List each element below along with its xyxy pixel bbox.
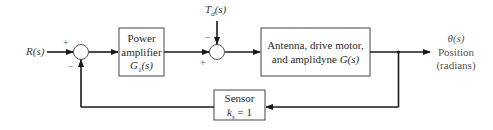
plant-line1: Antenna, drive motor, bbox=[261, 39, 370, 53]
output-line2: (radians) bbox=[432, 59, 480, 73]
input-label: R(s) bbox=[26, 45, 44, 58]
block-diagram: R(s) + − Power amplifier G1(s) Td(s) − +… bbox=[0, 0, 493, 130]
sensor-gain: ks = 1 bbox=[214, 106, 265, 125]
disturbance-label: Td(s) bbox=[205, 3, 226, 21]
sum1-plus-sign: + bbox=[63, 38, 69, 48]
summing-junction-2 bbox=[210, 45, 225, 60]
power-amplifier-label: Power amplifier G1(s) bbox=[119, 32, 164, 78]
output-symbol: θ(s) bbox=[432, 32, 480, 46]
power-amplifier-line2: amplifier bbox=[119, 46, 164, 60]
output-line1: Position bbox=[432, 46, 480, 60]
plant-line2: and amplidyne G(s) bbox=[261, 53, 370, 67]
sum2-plus-sign: + bbox=[200, 58, 206, 68]
summing-junction-1 bbox=[74, 45, 89, 60]
power-amplifier-line1: Power bbox=[119, 32, 164, 46]
sensor-line1: Sensor bbox=[214, 92, 265, 106]
sensor-label: Sensor ks = 1 bbox=[214, 92, 265, 124]
sum1-minus-sign: − bbox=[68, 62, 74, 72]
sum2-minus-sign: − bbox=[205, 33, 211, 43]
output-label: θ(s) Position (radians) bbox=[432, 32, 480, 73]
plant-label: Antenna, drive motor, and amplidyne G(s) bbox=[261, 39, 370, 66]
power-amplifier-transfer-fn: G1(s) bbox=[119, 59, 164, 78]
